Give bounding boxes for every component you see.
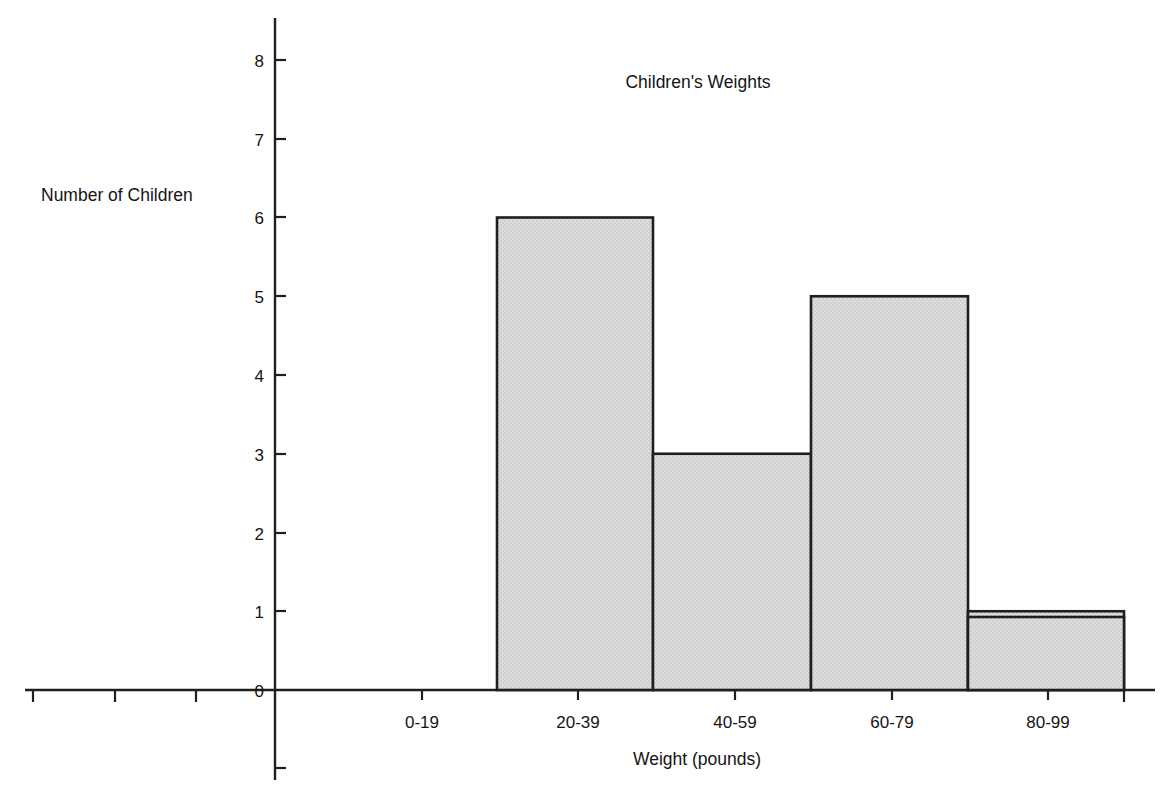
bar-0-19[interactable] [497,218,653,691]
y-axis-tick-labels: 8 7 6 5 4 3 2 1 0 [255,52,264,701]
chart-title: Children's Weights [625,72,770,92]
x-tick-label-80-99: 80-99 [1026,713,1069,732]
chart-container: Children's Weights Number of Children We… [0,0,1176,804]
x-axis-title: Weight (pounds) [633,749,761,769]
histogram-chart: Children's Weights Number of Children We… [0,0,1176,804]
bar-20-39[interactable] [653,454,811,690]
y-tick-label-2: 2 [255,525,264,544]
y-axis-title: Number of Children [41,185,193,205]
x-tick-label-40-59: 40-59 [713,713,756,732]
y-tick-label-6: 6 [255,209,264,228]
x-tick-label-60-79: 60-79 [870,713,913,732]
y-tick-label-0: 0 [255,682,264,701]
bar-80-99[interactable] [968,617,1124,690]
y-tick-label-3: 3 [255,446,264,465]
bar-40-59[interactable] [811,296,968,690]
y-tick-label-4: 4 [255,367,264,386]
x-tick-label-0-19: 0-19 [405,713,439,732]
y-tick-label-8: 8 [255,52,264,71]
y-tick-label-7: 7 [255,131,264,150]
y-tick-label-1: 1 [255,603,264,622]
y-tick-label-5: 5 [255,288,264,307]
x-tick-label-20-39: 20-39 [556,713,599,732]
